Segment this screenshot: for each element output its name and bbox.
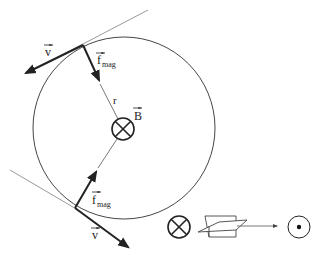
svg-text:mag: mag xyxy=(102,60,116,69)
rotating-plane-icon xyxy=(198,216,247,237)
velocity-label-bottom: v xyxy=(91,228,100,242)
legend-out-of-page-icon xyxy=(288,216,310,238)
svg-text:mag: mag xyxy=(97,200,111,209)
force-label-top: f mag xyxy=(96,53,116,69)
svg-text:v: v xyxy=(92,228,98,242)
velocity-vector-bottom xyxy=(75,208,128,247)
velocity-label-top: v xyxy=(44,45,53,59)
field-label: B xyxy=(133,108,142,123)
radius-line-bottom xyxy=(98,139,117,168)
svg-text:f: f xyxy=(97,53,101,67)
field-into-page-icon xyxy=(112,118,134,140)
svg-text:f: f xyxy=(92,193,96,207)
svg-text:v: v xyxy=(45,45,51,59)
radius-label: r xyxy=(113,94,117,106)
magnetic-field-diagram: v f mag r B f mag v xyxy=(0,0,324,256)
legend-into-page-icon xyxy=(168,216,190,238)
bottom-tangent-line xyxy=(10,170,78,210)
force-label-bottom: f mag xyxy=(92,192,111,209)
svg-text:B: B xyxy=(134,109,142,123)
